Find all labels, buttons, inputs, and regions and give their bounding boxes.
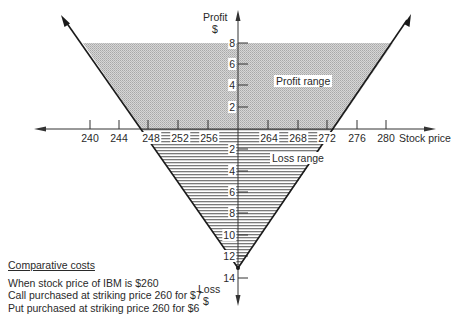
- comparative-costs-note: Comparative costs When stock price of IB…: [8, 259, 202, 314]
- y-axis-loss-unit: $: [203, 295, 209, 307]
- x-axis-left-arrow-icon: [34, 127, 46, 132]
- y-tick-label-loss: 4: [228, 165, 236, 177]
- loss-range-label: Loss range: [270, 152, 326, 164]
- y-tick-label-profit: 4: [228, 79, 236, 91]
- y-tick-label-profit: 6: [228, 58, 236, 70]
- comparative-costs-title: Comparative costs: [8, 259, 95, 272]
- y-tick-label-loss: 8: [228, 207, 236, 219]
- x-tick-label: 272: [317, 132, 337, 144]
- note-line: Put purchased at striking price 260 for …: [8, 302, 202, 315]
- profit-range-label: Profit range: [274, 75, 332, 87]
- x-tick-label: 276: [347, 132, 367, 144]
- y-tick-label-loss: 6: [228, 186, 236, 198]
- y-tick-label-loss: 14: [222, 272, 236, 284]
- x-tick-label: 240: [80, 132, 100, 144]
- payoff-right-arrow-icon: [404, 14, 411, 27]
- x-tick-label: 252: [170, 132, 190, 144]
- y-tick-label-loss: 12: [222, 250, 236, 262]
- note-line: Call purchased at striking price 260 for…: [8, 289, 202, 302]
- x-tick-label: 268: [288, 132, 308, 144]
- y-tick-label-loss: 10: [222, 229, 236, 241]
- x-tick-label: 256: [199, 132, 219, 144]
- y-tick-label-profit: 8: [228, 37, 236, 49]
- x-tick-label: 280: [376, 132, 396, 144]
- y-axis-profit-unit: $: [212, 23, 218, 35]
- x-tick-label: 248: [141, 132, 161, 144]
- y-axis-top-arrow-icon: [236, 10, 241, 21]
- x-tick-label: 244: [109, 132, 129, 144]
- x-axis-right-arrow-icon: [424, 127, 436, 132]
- y-axis-profit-label: Profit: [203, 11, 228, 23]
- y-tick-label-profit: 2: [228, 101, 236, 113]
- y-axis-bottom-arrow-icon: [236, 295, 241, 306]
- x-tick-label: 264: [259, 132, 279, 144]
- y-tick-label-loss: 2: [228, 143, 236, 155]
- payoff-vertex: [236, 266, 240, 270]
- x-axis-label: Stock price: [399, 132, 451, 144]
- note-line: When stock price of IBM is $260: [8, 277, 202, 290]
